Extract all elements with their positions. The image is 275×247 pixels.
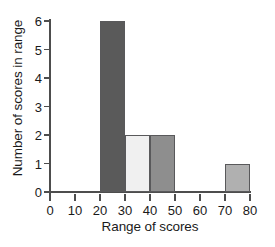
y-tick-mark [44, 77, 50, 79]
y-tick-mark [44, 20, 50, 22]
histogram-figure: Number of scores in range 0123456 010203… [0, 0, 275, 247]
y-tick-label: 2 [35, 129, 42, 142]
x-tick-mark [149, 194, 151, 201]
y-tick-mark [44, 134, 50, 136]
x-tick-label: 0 [46, 204, 53, 217]
y-axis-title: Number of scores in range [4, 0, 30, 196]
y-tick-label: 4 [35, 72, 42, 85]
histogram-bar [225, 164, 250, 193]
y-tick-mark [44, 191, 50, 193]
x-tick-mark [199, 194, 201, 201]
x-tick-mark [124, 194, 126, 201]
x-axis-title: Range of scores [50, 219, 250, 234]
y-tick-mark [44, 49, 50, 51]
y-tick-label: 6 [35, 15, 42, 28]
x-tick-label: 60 [193, 204, 207, 217]
y-tick-label: 3 [35, 100, 42, 113]
histogram-bar [150, 135, 175, 192]
y-tick-mark [44, 106, 50, 108]
plot-area: 0123456 01020304050607080 [50, 21, 250, 192]
x-tick-label: 30 [118, 204, 132, 217]
x-tick-label: 20 [93, 204, 107, 217]
histogram-bar [125, 135, 150, 192]
y-tick-label: 1 [35, 157, 42, 170]
x-tick-mark [74, 194, 76, 201]
x-tick-mark [224, 194, 226, 201]
y-tick-label: 0 [35, 186, 42, 199]
x-tick-label: 40 [143, 204, 157, 217]
x-tick-mark [99, 194, 101, 201]
x-tick-mark [174, 194, 176, 201]
x-tick-mark [249, 194, 251, 201]
x-tick-label: 70 [218, 204, 232, 217]
x-tick-label: 50 [168, 204, 182, 217]
x-tick-label: 10 [68, 204, 82, 217]
histogram-bar [100, 21, 125, 192]
x-tick-mark [49, 194, 51, 201]
y-tick-mark [44, 163, 50, 165]
y-tick-label: 5 [35, 43, 42, 56]
x-tick-label: 80 [243, 204, 257, 217]
